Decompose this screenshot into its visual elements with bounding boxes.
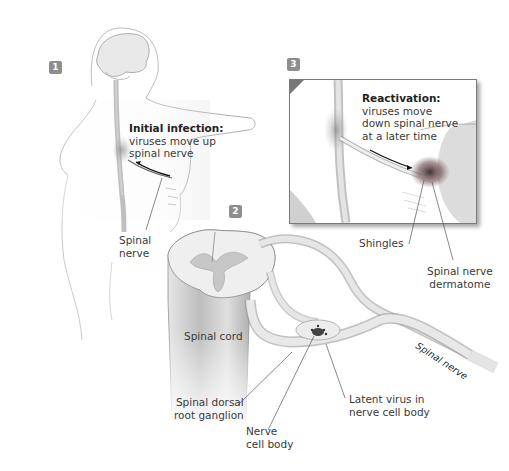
spinal-cord-label: Spinal cord [184, 330, 243, 343]
label-line: Spinal [119, 234, 151, 247]
label-line: Spinal nerve [427, 265, 493, 278]
label-line: Spinal dorsal [174, 396, 244, 409]
label-line: root ganglion [174, 409, 244, 422]
label-line: Spinal cord [184, 330, 243, 343]
label-line: nerve cell body [349, 406, 430, 419]
initial-infection-line-2: spinal nerve [129, 147, 223, 160]
spinal-nerve-label-panel-1: Spinal nerve [119, 234, 151, 259]
initial-infection-heading: Initial infection: [129, 122, 223, 135]
reactivation-callout: Reactivation: viruses move down spinal n… [362, 92, 458, 142]
initial-infection-callout: Initial infection: viruses move up spina… [129, 122, 223, 160]
label-line: cell body [246, 438, 293, 451]
panel-1-badge: 1 [49, 61, 62, 74]
label-line: Shingles [359, 237, 403, 250]
label-line: dermatome [427, 278, 493, 291]
nerve-roots [250, 239, 496, 368]
nerve-cell-body-label: Nerve cell body [246, 425, 293, 450]
shingles-label: Shingles [359, 237, 403, 250]
reactivation-line-2: down spinal nerve [362, 117, 458, 130]
figure-stage: 1 2 3 Initial infection: viruses move up… [0, 0, 509, 471]
reactivation-line-3: at a later time [362, 130, 458, 143]
illustration-artwork [0, 0, 509, 471]
label-line: nerve [119, 247, 151, 260]
panel-2-badge: 2 [229, 205, 242, 218]
label-line: Nerve [246, 425, 293, 438]
latent-virus-label: Latent virus in nerve cell body [349, 393, 430, 418]
reactivation-line-1: viruses move [362, 105, 458, 118]
dorsal-root-ganglion-label: Spinal dorsal root ganglion [174, 396, 244, 421]
dermatome-label: Spinal nerve dermatome [427, 265, 493, 290]
panel-3-badge: 3 [287, 58, 300, 71]
label-line: Latent virus in [349, 393, 430, 406]
initial-infection-line-1: viruses move up [129, 135, 223, 148]
reactivation-heading: Reactivation: [362, 92, 458, 105]
